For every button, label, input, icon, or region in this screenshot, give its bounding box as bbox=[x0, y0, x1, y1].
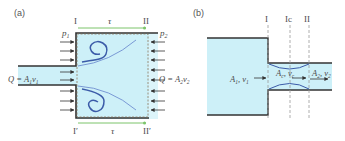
panel-a: (a) I II τ I′ II′ τ p1 p2 bbox=[8, 8, 190, 136]
pressure-p1-label: p1 bbox=[61, 28, 70, 39]
section-II-prime-label: II′ bbox=[143, 126, 151, 136]
section-I-prime-label: I′ bbox=[73, 126, 78, 136]
outflow-label: Q = A2v2 bbox=[159, 74, 190, 85]
section-b-Ic-label: Ic bbox=[285, 14, 292, 24]
section-II-label: II bbox=[143, 16, 149, 26]
shear-bottom-label: τ bbox=[111, 126, 115, 136]
section-b-I-label: I bbox=[265, 14, 268, 24]
pressure-p2-label: p2 bbox=[159, 28, 168, 39]
section-I-label: I bbox=[74, 16, 77, 26]
panel-b: (b) I Ic II A1, v1 Ac, vc A2, v2 bbox=[193, 8, 332, 120]
inflow-label: Q = A1v1 bbox=[8, 74, 39, 85]
expansion-fluid bbox=[76, 33, 149, 119]
figure-canvas: (a) I II τ I′ II′ τ p1 p2 bbox=[0, 0, 345, 141]
panel-b-label: (b) bbox=[193, 8, 204, 18]
shear-top-label: τ bbox=[108, 16, 112, 26]
panel-a-label: (a) bbox=[14, 8, 25, 18]
section-b-II-label: II bbox=[304, 14, 310, 24]
outflow-fluid bbox=[149, 33, 158, 119]
